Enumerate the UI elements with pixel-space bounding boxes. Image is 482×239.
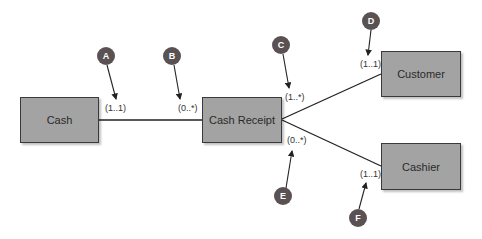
callout-b: B [163,47,181,65]
class-cashier-label: Cashier [402,161,440,173]
pointer-d [368,30,371,55]
multiplicity-a: (1..1) [105,103,126,113]
pointer-b [174,65,180,99]
pointer-e [286,151,292,188]
multiplicity-f: (1..1) [360,169,381,179]
multiplicity-e: (0..*) [287,135,307,145]
pointer-c [283,54,289,88]
class-cashier: Cashier [381,143,461,190]
multiplicity-c: (1..*) [285,92,305,102]
class-cash: Cash [20,97,99,143]
multiplicity-b: (0..*) [178,103,198,113]
callout-c: C [272,36,290,54]
pointer-a [107,65,116,99]
class-cash-receipt-label: Cash Receipt [209,114,275,126]
callout-a: A [97,47,115,65]
class-customer: Customer [381,51,461,97]
callout-f: F [349,209,367,227]
class-cash-receipt: Cash Receipt [202,97,282,143]
callout-d: D [362,12,380,30]
callout-e: E [274,187,292,205]
multiplicity-d: (1..1) [360,59,381,69]
class-customer-label: Customer [397,68,445,80]
class-cash-label: Cash [47,114,73,126]
pointer-f [359,183,366,209]
